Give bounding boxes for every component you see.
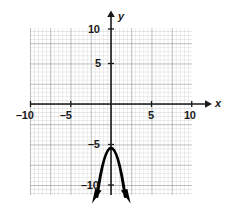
y-tick-label-neg10: –10: [81, 180, 98, 191]
y-tick-label-5: 5: [95, 58, 101, 69]
x-tick-label-5: 5: [148, 110, 154, 121]
y-tick-label-neg5: –5: [88, 139, 100, 150]
y-tick-label-10: 10: [88, 24, 100, 35]
coordinate-plane: [0, 0, 234, 205]
x-tick-label-10: 10: [184, 110, 196, 121]
y-axis-arrowhead: [107, 11, 115, 18]
x-axis-label: x: [215, 98, 221, 109]
x-tick-label-neg5: –5: [60, 110, 72, 121]
graph-figure: y x –10 –5 5 10 10 5 –5 –10: [0, 0, 234, 205]
y-axis-label: y: [118, 11, 124, 22]
x-axis-arrowhead: [205, 100, 212, 108]
x-tick-label-neg10: –10: [16, 110, 33, 121]
